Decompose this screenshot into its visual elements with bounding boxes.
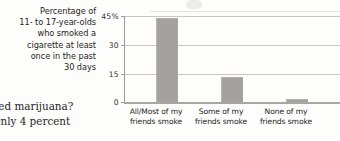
bar-some-friends-smoke [221,77,243,102]
caption-line: cigarette at least [0,40,96,51]
x-label-line: None of my [247,107,325,117]
plot-area [124,16,340,103]
x-axis-line [124,102,340,104]
gridline-45 [124,16,340,17]
y-tick-15 [121,74,125,75]
page-edge [0,138,340,141]
caption-line: 11- to 17-year-olds [0,17,96,28]
y-tick-label-45: 45% [85,12,119,21]
bar-chart: 45% 30 15 0 All/Most of my friends smoke [104,0,340,141]
y-tick-45 [121,16,125,17]
x-label-line: friends smoke [247,117,325,127]
y-tick-label-0: 0 [85,98,119,107]
x-category-label-none: None of my friends smoke [247,107,325,127]
figure-page: Percentage of 11- to 17-year-olds who sm… [0,0,340,141]
body-text-line: Only 4 percent [0,114,100,129]
caption-line: who smoked a [0,28,96,39]
y-tick-30 [121,45,125,46]
y-tick-label-15: 15 [85,70,119,79]
bar-all-most-friends-smoke [156,18,178,102]
caption-line: 30 days [0,62,96,73]
caption-line: once in the past [0,51,96,62]
y-axis-line [124,16,125,104]
y-tick-label-30: 30 [85,41,119,50]
figure-caption: Percentage of 11- to 17-year-olds who sm… [0,6,96,73]
caption-line: Percentage of [0,6,96,17]
